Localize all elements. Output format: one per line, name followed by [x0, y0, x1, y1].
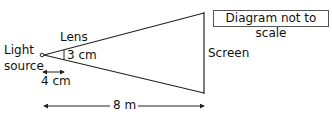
screen-label: Screen: [208, 47, 249, 60]
not-to-scale-note: Diagram not to scale: [213, 10, 329, 27]
light-source-point: [40, 53, 44, 57]
light-source-label-1: Light: [4, 44, 34, 57]
screen-distance-label: 8 m: [113, 99, 136, 112]
lens-label: Lens: [60, 31, 88, 44]
lens-distance-label: 4 cm: [41, 75, 71, 88]
lens-height-label: 3 cm: [67, 49, 97, 62]
light-source-label-2: source: [4, 60, 44, 73]
